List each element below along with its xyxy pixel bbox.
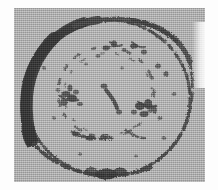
outer-ring-top-arc [74,19,190,62]
granule-center-dash [101,84,123,115]
photo-plate [14,8,205,182]
outer-ring-thick-arc [25,20,98,144]
granule-specks-upper-center [96,41,148,59]
granule-specks-upper-right [150,64,169,81]
granule-cluster-right [131,99,163,120]
micrograph-drawing-layer [14,8,205,182]
outer-ring-bottom-arc [34,144,154,180]
scanned-image-figure: circular cell-like body [0,0,218,190]
